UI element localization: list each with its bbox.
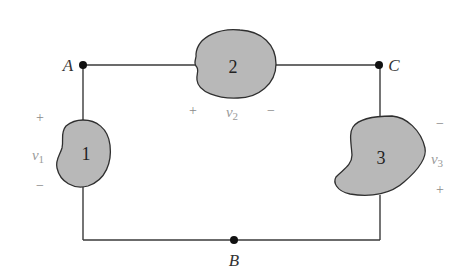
v2-subscript: 2 [233,110,239,122]
v3-plus-sign: + [436,182,444,197]
node-b-dot [230,236,238,244]
node-c-label: C [388,56,400,75]
v3-subscript: 3 [438,157,444,169]
v2-plus-sign: + [189,103,197,118]
v2-minus-sign: − [267,103,275,118]
v1-subscript: 1 [39,153,45,165]
v2-label: v2 [226,104,238,122]
node-c-dot [375,61,383,69]
v3-minus-sign: − [436,116,444,131]
v3-label: v3 [431,151,444,169]
circuit-diagram: 2 1 3 A C B + v1 − + v2 − − v3 + [0,0,471,275]
node-a-label: A [62,56,74,75]
v1-plus-sign: + [36,110,44,125]
v1-minus-sign: − [36,178,44,193]
element-2-label: 2 [229,57,238,77]
node-a-dot [79,61,87,69]
node-b-label: B [229,251,240,270]
element-1-label: 1 [82,144,91,164]
element-3-label: 3 [377,148,386,168]
v1-label: v1 [32,147,44,165]
